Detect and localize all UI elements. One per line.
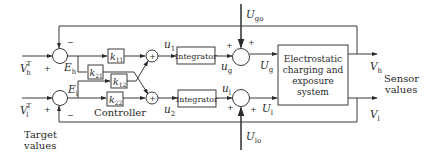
svg-text:system: system xyxy=(297,87,329,97)
vh-target-label: VTh xyxy=(20,60,32,77)
plus-sign-ul: + xyxy=(227,103,234,112)
minus-sign-h: − xyxy=(67,38,74,47)
ul-label: ul xyxy=(222,82,232,97)
svg-text:+: + xyxy=(149,94,156,103)
svg-text:exposure: exposure xyxy=(292,76,334,86)
offset-summer-g xyxy=(233,49,250,66)
eh-to-k21 xyxy=(78,56,87,72)
integrator-1: Integrator xyxy=(175,47,217,64)
plus-sign-vl: + xyxy=(44,105,51,114)
plus-sign-ug: + xyxy=(226,41,233,50)
target-values-caption-1: Target xyxy=(24,129,57,140)
gain-k21: k21 xyxy=(88,65,103,79)
target-values-caption-2: values xyxy=(23,140,56,151)
eh-label: Eh xyxy=(63,61,77,76)
u2-label: u2 xyxy=(164,103,175,118)
svg-text:charging and: charging and xyxy=(283,65,344,75)
offset-summer-l xyxy=(233,90,250,107)
controller-sum-2: + xyxy=(146,92,158,104)
controller-sum-1: + xyxy=(146,50,158,62)
u1-label: u1 xyxy=(164,38,175,53)
Ug-label: Ug xyxy=(260,59,274,74)
k12-to-sum1 xyxy=(127,61,148,81)
sensor-values-caption-2: values xyxy=(384,84,417,95)
plus-sign-ugo: + xyxy=(248,38,255,47)
vh-output-label: Vh xyxy=(370,60,383,75)
gain-k22: k22 xyxy=(107,92,123,106)
control-block-diagram: VTh + VTl + Target values − − Eh El k11 … xyxy=(0,0,433,154)
sensor-values-caption-1: Sensor xyxy=(384,73,419,84)
plus-sign-vh: + xyxy=(44,64,51,73)
el-to-k12 xyxy=(78,81,110,98)
error-summer-l xyxy=(53,91,68,106)
ug-label: ug xyxy=(221,60,233,75)
gain-k11: k11 xyxy=(108,49,124,63)
svg-text:Electrostatic: Electrostatic xyxy=(284,54,342,64)
plant-block: Electrostatic charging and exposure syst… xyxy=(278,45,348,105)
controller-label: Controller xyxy=(94,107,146,118)
svg-text:+: + xyxy=(149,52,156,61)
minus-sign-l: − xyxy=(67,111,74,120)
svg-text:Integrator: Integrator xyxy=(175,52,217,61)
svg-text:Integrator: Integrator xyxy=(176,95,218,104)
integrator-2: Integrator xyxy=(176,90,218,107)
ulo-label: Ulo xyxy=(246,130,261,145)
vl-target-label: VTl xyxy=(20,102,32,119)
plus-sign-ulo: + xyxy=(250,105,257,114)
vl-output-label: Vl xyxy=(370,108,381,123)
el-label: El xyxy=(67,83,79,98)
Ul-label: Ul xyxy=(262,102,274,117)
ugo-label: Ugo xyxy=(246,8,264,23)
gain-k12: k12 xyxy=(111,74,127,88)
